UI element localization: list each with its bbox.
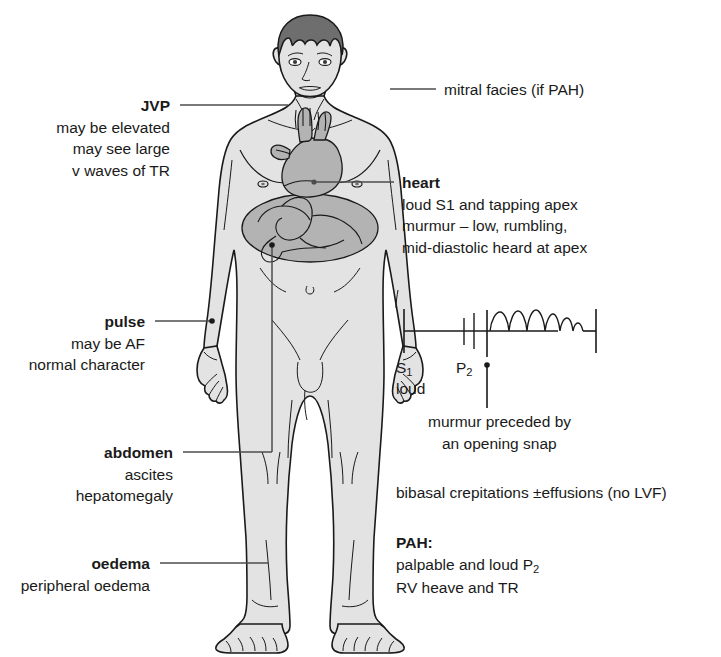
pcg-annotation: murmur preceded by an opening snap (428, 411, 571, 454)
heart-leader-dot (311, 179, 316, 184)
label-pulse-line-1: may be AF (5, 333, 145, 355)
label-jvp: JVP may be elevated may see large v wave… (20, 95, 170, 181)
label-oedema: oedema peripheral oedema (0, 553, 150, 596)
label-pah: PAH: palpable and loud P2 RV heave and T… (396, 532, 539, 599)
left-hand (197, 346, 227, 403)
label-oedema-line-1: peripheral oedema (0, 575, 150, 597)
label-jvp-heading: JVP (20, 95, 170, 117)
pcg-label-s1: S1 (396, 357, 413, 381)
label-pah-line-1-text: palpable and loud P (396, 556, 533, 573)
label-pah-line-1-sub: 2 (533, 563, 539, 575)
pcg-annotation-line-2: an opening snap (442, 433, 571, 455)
pcg-annotation-arrowhead (484, 362, 490, 368)
label-abdomen-line-2: hepatomegaly (25, 485, 173, 507)
label-abdomen: abdomen ascites hepatomegaly (25, 442, 173, 507)
label-pah-line-1: palpable and loud P2 (396, 554, 539, 578)
label-pah-heading: PAH: (396, 532, 539, 554)
pcg-label-s1-sub: 1 (406, 366, 412, 378)
label-heart: heart loud S1 and tapping apex murmur – … (402, 172, 587, 258)
label-mitral-facies-text: mitral facies (if PAH) (444, 79, 584, 101)
pcg-annotation-line-1: murmur preceded by (428, 411, 571, 433)
pcg-caption-loud: loud (396, 378, 425, 400)
abdomen-leader-dot (269, 242, 275, 248)
label-pah-line-2: RV heave and TR (396, 577, 539, 599)
pcg-label-p2: P2 (456, 357, 473, 381)
label-pulse-heading: pulse (5, 311, 145, 333)
label-heart-line-3: mid-diastolic heard at apex (402, 237, 587, 259)
pulse-leader-dot (209, 318, 215, 324)
label-jvp-line-1: may be elevated (20, 117, 170, 139)
label-heart-heading: heart (402, 172, 587, 194)
pcg-label-p2-sub: 2 (466, 366, 472, 378)
label-heart-line-1: loud S1 and tapping apex (402, 194, 587, 216)
label-abdomen-heading: abdomen (25, 442, 173, 464)
label-heart-line-2: murmur – low, rumbling, (402, 215, 587, 237)
phonocardiogram (404, 309, 596, 408)
label-abdomen-line-1: ascites (25, 464, 173, 486)
label-oedema-heading: oedema (0, 553, 150, 575)
label-pulse: pulse may be AF normal character (5, 311, 145, 376)
body-silhouette (197, 15, 423, 653)
pcg-label-p2-text: P (456, 359, 466, 376)
label-jvp-line-3: v waves of TR (20, 160, 170, 182)
label-chest-findings: bibasal crepitations ±effusions (no LVF) (396, 482, 667, 504)
pcg-label-s1-text: S (396, 359, 406, 376)
label-mitral-facies: mitral facies (if PAH) (444, 79, 584, 101)
label-pulse-line-2: normal character (5, 354, 145, 376)
pcg-murmur-waveform (490, 310, 583, 331)
abdominal-organs (242, 194, 378, 262)
label-jvp-line-2: may see large (20, 138, 170, 160)
diagram-canvas: .skin { fill:#e3e3e3; stroke:#1a1a1a; st… (0, 0, 721, 657)
